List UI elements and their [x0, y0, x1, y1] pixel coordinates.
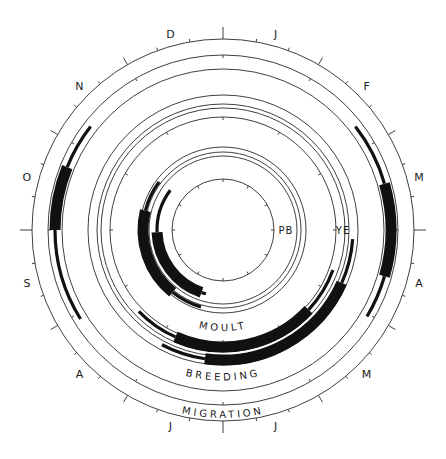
minor-tick: [189, 39, 190, 42]
minor-tick: [32, 196, 35, 197]
month-boundary-tick: [124, 395, 128, 402]
ring-tick: [136, 78, 138, 81]
minor-tick: [98, 376, 100, 378]
minor-tick: [256, 418, 257, 421]
ring-tick: [372, 316, 375, 318]
breeding-label: BREEDING: [185, 367, 262, 383]
ring-tick: [198, 272, 200, 275]
activity-bar-partial: [55, 230, 81, 319]
minor-tick: [157, 48, 158, 51]
month-boundary-tick: [124, 58, 128, 65]
month-label: D: [166, 28, 174, 41]
ring-tick: [125, 285, 128, 287]
activity-bar-partial: [157, 190, 170, 232]
activity-bar-partial: [67, 127, 90, 167]
minor-tick: [157, 409, 158, 412]
species-label-pb: PB: [279, 225, 294, 236]
activity-bar-partial: [202, 292, 206, 293]
month-boundary-tick: [388, 131, 395, 135]
minor-tick: [288, 409, 289, 412]
minor-tick: [411, 263, 414, 264]
minor-tick: [98, 81, 100, 83]
month-boundary-tick: [51, 131, 58, 135]
ring-tick: [167, 132, 169, 135]
month-label: A: [415, 277, 423, 290]
minor-tick: [41, 164, 44, 165]
minor-tick: [189, 418, 190, 421]
minor-tick: [402, 295, 405, 296]
month-label: M: [362, 368, 372, 381]
minor-tick: [32, 263, 35, 264]
month-label: F: [363, 80, 369, 93]
ring-tick: [278, 132, 280, 135]
ring-tick: [125, 174, 128, 176]
ring-tick: [372, 143, 375, 145]
month-label: J: [168, 420, 172, 433]
minor-tick: [74, 105, 76, 107]
ring-tick: [247, 186, 249, 189]
month-boundary-tick: [388, 326, 395, 330]
month-label: S: [23, 277, 30, 290]
ring-tick: [265, 205, 268, 207]
month-label: O: [23, 171, 32, 184]
month-boundary-tick: [51, 326, 58, 330]
ring-tick: [318, 174, 321, 176]
month-boundary-tick: [319, 58, 323, 65]
minor-tick: [41, 295, 44, 296]
month-label: J: [273, 420, 277, 433]
month-label: A: [76, 368, 84, 381]
month-boundary-tick: [319, 395, 323, 402]
minor-tick: [369, 353, 371, 355]
minor-tick: [74, 353, 76, 355]
ring-labels: PB YE: [279, 225, 351, 236]
circular-annual-chart: JFMAMJJASOND PB YE MOULT BREEDING MIGRAT…: [0, 0, 446, 459]
month-label: N: [75, 80, 83, 93]
minor-tick: [288, 48, 289, 51]
activity-bar-partial: [342, 239, 353, 283]
minor-tick: [346, 81, 348, 83]
ring-circle: [149, 156, 297, 304]
annual-cycle-diagram: JFMAMJJASOND PB YE MOULT BREEDING MIGRAT…: [0, 0, 446, 459]
ring-tick: [247, 272, 249, 275]
ring-tick: [198, 186, 200, 189]
ring-tick: [179, 254, 182, 256]
activity-bar-peak: [384, 184, 391, 277]
ring-tick: [265, 254, 268, 256]
migration-label: MIGRATION: [181, 405, 265, 420]
minor-tick: [346, 376, 348, 378]
month-label: M: [414, 171, 424, 184]
minor-tick: [256, 39, 257, 42]
ring-tick: [179, 205, 182, 207]
ring-tick: [309, 78, 311, 81]
species-label-ye: YE: [335, 225, 350, 236]
ring-tick: [318, 285, 321, 287]
minor-tick: [402, 164, 405, 165]
ring-circle: [172, 179, 274, 281]
month-label: J: [273, 28, 277, 41]
ring-tick: [136, 379, 138, 382]
minor-tick: [369, 105, 371, 107]
ring-tick: [71, 143, 74, 145]
ring-tick: [309, 379, 311, 382]
ring-tick: [167, 325, 169, 328]
minor-tick: [411, 196, 414, 197]
ring-tick: [71, 316, 74, 318]
moult-label: MOULT: [198, 319, 248, 333]
